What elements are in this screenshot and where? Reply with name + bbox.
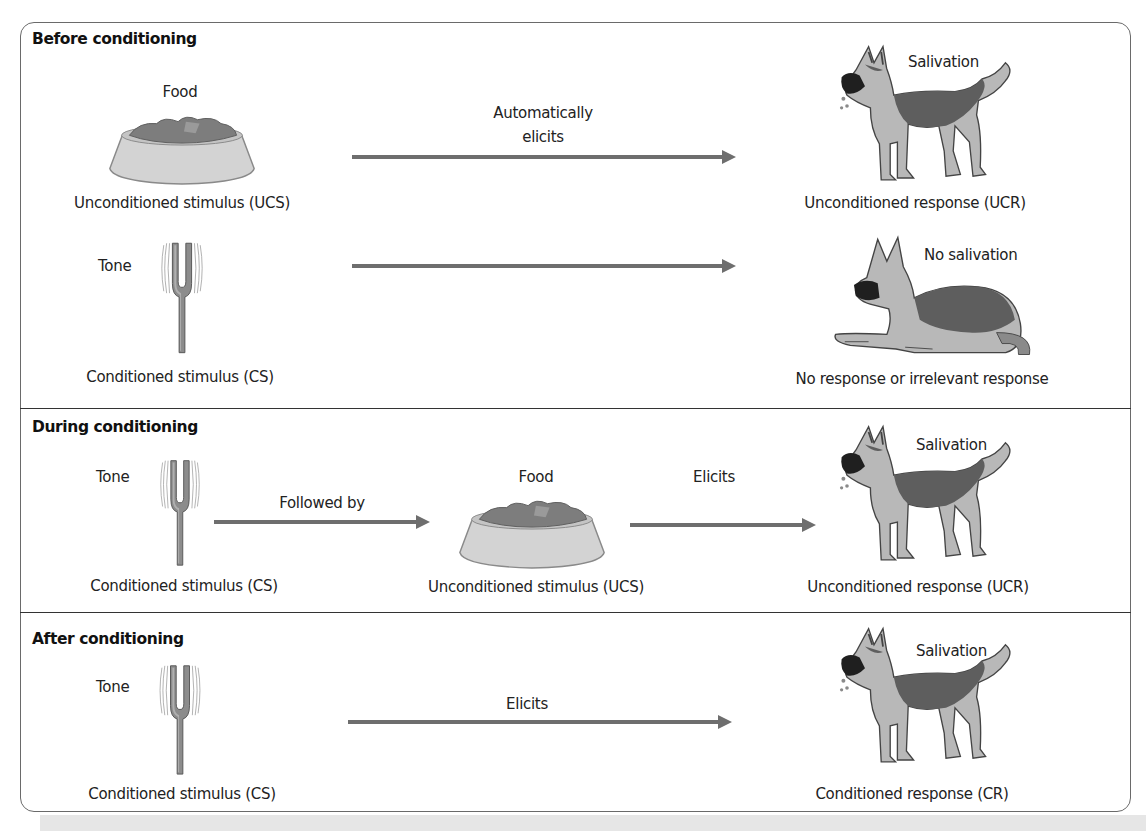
arrow-label-elicits: Elicits — [693, 468, 735, 486]
section-divider-1 — [20, 408, 1131, 409]
food-bowl-icon — [448, 492, 616, 570]
response-caption-ucr: Unconditioned response (UCR) — [807, 578, 1028, 596]
response-label-no-salivation: No salivation — [924, 246, 1017, 264]
stimulus-caption-cs: Conditioned stimulus (CS) — [90, 577, 278, 595]
middle-caption-ucs: Unconditioned stimulus (UCS) — [428, 578, 644, 596]
tuning-fork-icon — [156, 662, 204, 776]
stimulus-caption-cs: Conditioned stimulus (CS) — [86, 368, 274, 386]
response-label-salivation: Salivation — [908, 53, 979, 71]
response-caption-ucr: Unconditioned response (UCR) — [804, 194, 1025, 212]
response-label-salivation: Salivation — [916, 436, 987, 454]
response-caption-cr: Conditioned response (CR) — [815, 785, 1008, 803]
arrow-label-elicits: Elicits — [506, 695, 548, 713]
section-title-after: After conditioning — [32, 630, 184, 648]
stimulus-label-tone: Tone — [96, 678, 129, 696]
arrow-elicits — [630, 518, 816, 532]
section-title-before: Before conditioning — [32, 30, 197, 48]
arrow-elicits — [348, 715, 732, 729]
section-divider-2 — [20, 612, 1131, 613]
arrow-followed-by — [214, 515, 430, 529]
tuning-fork-icon — [158, 238, 206, 356]
stimulus-caption-ucs: Unconditioned stimulus (UCS) — [74, 194, 290, 212]
middle-label-food: Food — [519, 468, 554, 486]
food-bowl-icon — [102, 108, 262, 186]
stimulus-caption-cs: Conditioned stimulus (CS) — [88, 785, 276, 803]
stimulus-label-food: Food — [163, 83, 198, 101]
section-title-during: During conditioning — [32, 418, 198, 436]
arrow-label-line2: elicits — [522, 128, 564, 146]
arrow-automatically-elicits — [352, 150, 736, 164]
stimulus-label-tone: Tone — [98, 257, 131, 275]
arrow-label-followed-by: Followed by — [279, 494, 365, 512]
page-edge-band — [40, 815, 1146, 831]
arrow-label-line1: Automatically — [493, 104, 592, 122]
response-caption-no-response: No response or irrelevant response — [796, 370, 1049, 388]
arrow-no-effect — [352, 259, 736, 273]
tuning-fork-icon — [156, 457, 204, 567]
stimulus-label-tone: Tone — [96, 468, 129, 486]
response-label-salivation: Salivation — [916, 642, 987, 660]
